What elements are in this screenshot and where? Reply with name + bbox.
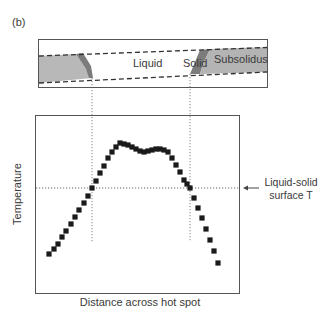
- panel-label: (b): [12, 16, 25, 28]
- data-point-marker: [68, 221, 73, 226]
- subsolidus-label: Subsolidus: [214, 53, 268, 65]
- data-point-marker: [169, 155, 174, 160]
- hot-spot-diagram: [0, 0, 328, 328]
- liquid-label: Liquid: [133, 57, 162, 69]
- data-point-marker: [85, 193, 90, 198]
- data-point-marker: [89, 185, 94, 190]
- data-point-marker: [215, 260, 220, 265]
- data-point-marker: [199, 215, 204, 220]
- data-point-marker: [55, 241, 60, 246]
- annotation-line-1: Liquid-solid: [258, 176, 324, 189]
- data-point-marker: [81, 200, 86, 205]
- data-point-marker: [177, 169, 182, 174]
- data-point-marker: [63, 228, 68, 233]
- data-point-marker: [101, 163, 106, 168]
- x-axis-label: Distance across hot spot: [0, 296, 280, 308]
- data-point-marker: [211, 248, 216, 253]
- data-point-marker: [76, 207, 81, 212]
- data-point-marker: [207, 237, 212, 242]
- y-axis-label: Temperature: [11, 159, 23, 229]
- data-point-marker: [46, 251, 51, 256]
- data-point-marker: [59, 234, 64, 239]
- solid-label: Solid: [183, 57, 207, 69]
- liquid-solid-annotation: Liquid-solid surface T: [258, 176, 324, 202]
- data-point-marker: [187, 185, 192, 190]
- data-point-marker: [97, 170, 102, 175]
- temperature-data-points: [46, 140, 220, 265]
- left-arrow-icon: [243, 186, 259, 191]
- plot-frame: [36, 116, 240, 294]
- data-point-marker: [93, 178, 98, 183]
- data-point-marker: [165, 149, 170, 154]
- annotation-line-2: surface T: [258, 189, 324, 202]
- data-point-marker: [173, 162, 178, 167]
- data-point-marker: [51, 246, 56, 251]
- data-point-marker: [72, 214, 77, 219]
- data-point-marker: [195, 205, 200, 210]
- data-point-marker: [203, 226, 208, 231]
- data-point-marker: [109, 149, 114, 154]
- data-point-marker: [105, 155, 110, 160]
- data-point-marker: [191, 195, 196, 200]
